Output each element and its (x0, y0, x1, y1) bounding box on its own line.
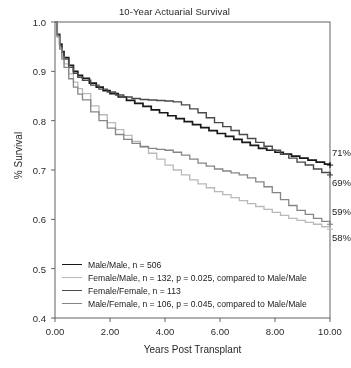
legend-item: Male/Male, n = 506 (62, 258, 328, 271)
figure-caption (4, 360, 6, 367)
chart-legend: Male/Male, n = 506Female/Male, n = 132, … (62, 258, 328, 310)
endpoint-label: 59% (332, 206, 351, 217)
legend-label: Female/Female, n = 113 (88, 286, 181, 296)
legend-line-swatch (62, 303, 82, 304)
legend-line-swatch (62, 290, 82, 291)
legend-label: Female/Male, n = 132, p = 0.025, compare… (88, 273, 307, 283)
legend-line-swatch (62, 264, 82, 265)
legend-item: Female/Male, n = 132, p = 0.025, compare… (62, 271, 328, 284)
legend-label: Male/Male, n = 506 (88, 260, 161, 270)
legend-item: Male/Female, n = 106, p = 0.045, compare… (62, 297, 328, 310)
endpoint-label: 58% (332, 232, 351, 243)
legend-label: Male/Female, n = 106, p = 0.045, compare… (88, 299, 307, 309)
endpoint-label: 69% (332, 177, 351, 188)
endpoint-label: 71% (332, 147, 351, 158)
legend-line-swatch (62, 277, 82, 278)
legend-item: Female/Female, n = 113 (62, 284, 328, 297)
